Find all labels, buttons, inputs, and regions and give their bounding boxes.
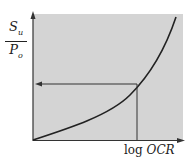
y-label-numerator-sub: u <box>18 28 23 37</box>
y-axis-label: Su Po <box>2 20 30 62</box>
y-label-denominator: P <box>9 42 18 57</box>
x-label-variable: OCR <box>147 143 175 157</box>
x-label-prefix: log <box>124 143 143 157</box>
y-label-numerator: S <box>9 19 18 34</box>
plot-area <box>33 14 183 140</box>
y-label-denominator-sub: o <box>18 50 23 59</box>
x-axis-label: log OCR <box>124 143 175 157</box>
